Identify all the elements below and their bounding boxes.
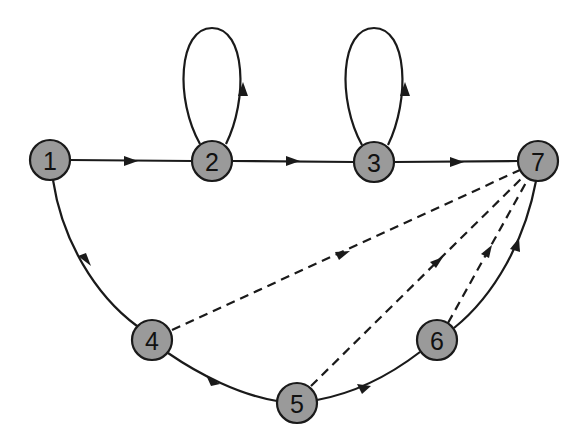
edge-4-7-dashed [172,170,520,330]
edge-4-5 [168,353,277,401]
arrow-head-icon [481,245,492,258]
node-3: 3 [354,142,394,182]
node-7: 7 [518,141,558,181]
edge-1-4 [53,180,137,326]
arrow-head-icon [124,156,138,166]
node-1: 1 [30,140,70,180]
arrow-head-icon [357,384,371,394]
node-label: 2 [205,148,219,176]
node-label: 3 [367,149,381,177]
edge-3-3-self-loop [346,28,403,145]
node-label: 7 [531,148,545,176]
node-5: 5 [277,383,317,423]
arrow-head-icon [335,251,350,260]
node-6: 6 [417,320,457,360]
edge-2-2-self-loop [184,28,241,144]
arrow-head-icon [510,238,520,252]
node-label: 5 [290,390,304,418]
node-2: 2 [192,141,232,181]
node-4: 4 [132,320,172,360]
arrow-head-icon [206,375,220,386]
edge-5-6 [317,352,420,400]
node-label: 1 [43,147,57,175]
node-label: 4 [145,327,159,355]
node-label: 6 [430,327,444,355]
arrow-head-icon [286,156,300,166]
arrow-head-icon [450,157,464,167]
graph-diagram: 1 2 3 7 4 5 6 [0,0,585,446]
